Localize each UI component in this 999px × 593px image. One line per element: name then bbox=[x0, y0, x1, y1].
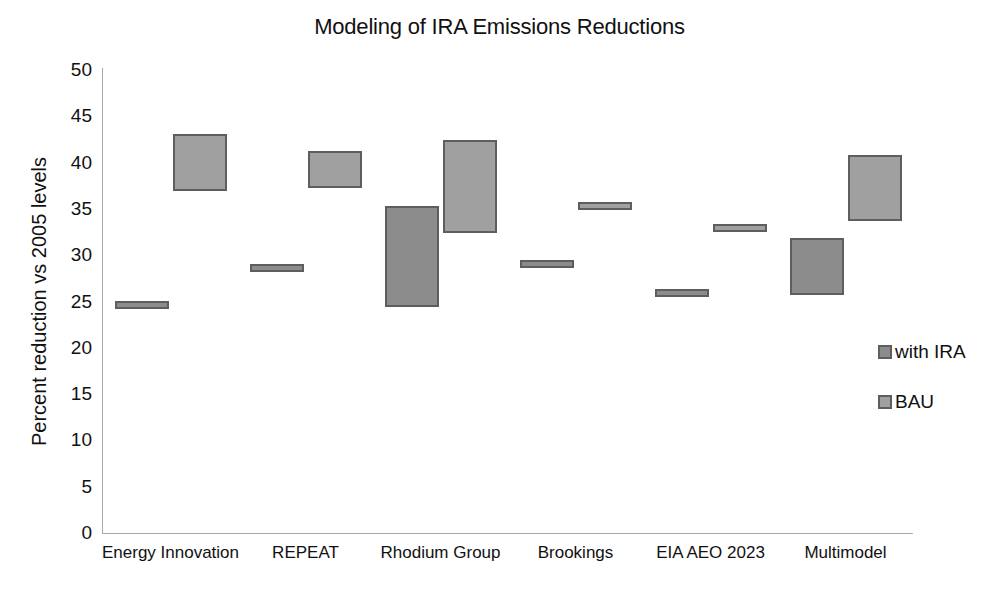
legend-entry: BAU bbox=[878, 391, 999, 413]
legend-entry: with IRA bbox=[878, 341, 999, 363]
chart-title: Modeling of IRA Emissions Reductions bbox=[0, 14, 999, 40]
bar-with-ira bbox=[385, 206, 439, 307]
bar-with-ira bbox=[655, 289, 709, 297]
x-axis-tick-label: Rhodium Group bbox=[380, 543, 500, 563]
legend-swatch-icon bbox=[878, 395, 892, 409]
bar-with-ira bbox=[790, 238, 844, 295]
bar-bau bbox=[308, 151, 362, 188]
x-axis-line bbox=[102, 533, 913, 534]
legend-swatch-icon bbox=[878, 345, 892, 359]
y-axis-tick-label: 15 bbox=[32, 383, 92, 405]
bar-with-ira bbox=[520, 260, 574, 268]
y-axis-tick-label: 40 bbox=[32, 152, 92, 174]
bar-bau bbox=[443, 140, 497, 233]
y-axis-tick-label: 20 bbox=[32, 337, 92, 359]
bar-bau bbox=[578, 202, 632, 210]
x-axis-tick-label: Energy Innovation bbox=[102, 543, 239, 563]
bar-bau bbox=[848, 155, 902, 221]
y-axis-tick-label: 45 bbox=[32, 105, 92, 127]
x-axis-tick-label: REPEAT bbox=[272, 543, 339, 563]
y-axis-tick-labels: 50454035302520151050 bbox=[20, 0, 92, 593]
chart-legend: with IRABAU bbox=[878, 341, 999, 441]
x-axis-tick-label: EIA AEO 2023 bbox=[656, 543, 765, 563]
bar-bau bbox=[713, 224, 767, 232]
y-axis-tick-label: 5 bbox=[32, 476, 92, 498]
chart-container: Modeling of IRA Emissions Reductions Per… bbox=[0, 0, 999, 593]
x-axis-tick-label: Brookings bbox=[538, 543, 614, 563]
legend-label: BAU bbox=[895, 391, 934, 413]
bar-with-ira bbox=[115, 301, 169, 309]
y-axis-tick-label: 35 bbox=[32, 198, 92, 220]
y-axis-tick-label: 10 bbox=[32, 429, 92, 451]
y-axis-tick-label: 0 bbox=[32, 522, 92, 544]
bar-bau bbox=[173, 134, 227, 191]
y-axis-tick-label: 50 bbox=[32, 59, 92, 81]
legend-label: with IRA bbox=[895, 341, 966, 363]
bar-with-ira bbox=[250, 264, 304, 272]
y-axis-tick-label: 25 bbox=[32, 291, 92, 313]
y-axis-tick-label: 30 bbox=[32, 244, 92, 266]
x-axis-tick-label: Multimodel bbox=[804, 543, 886, 563]
